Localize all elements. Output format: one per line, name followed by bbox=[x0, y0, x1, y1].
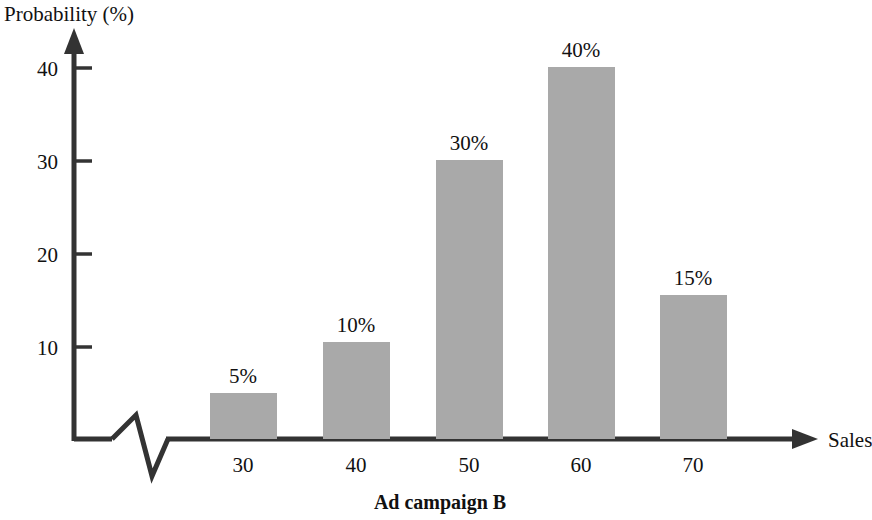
y-tick-label-30: 30 bbox=[37, 150, 58, 174]
chart-canvas: Probability (%) 40 30 20 10 Sales 5% 10% bbox=[0, 0, 872, 520]
y-tick-label-40: 40 bbox=[37, 57, 58, 81]
bar-40 bbox=[323, 342, 390, 439]
x-axis-title: Sales bbox=[828, 428, 872, 452]
y-axis-arrow-icon bbox=[64, 28, 84, 54]
bar-value-label-60: 40% bbox=[562, 38, 601, 62]
y-tick-label-10: 10 bbox=[37, 336, 58, 360]
x-axis-arrow-icon bbox=[792, 429, 818, 449]
bar-70 bbox=[660, 295, 727, 439]
x-tick-label-70: 70 bbox=[683, 453, 704, 477]
bar-chart-figure: Probability (%) 40 30 20 10 Sales 5% 10% bbox=[0, 0, 872, 520]
bar-60 bbox=[548, 67, 615, 439]
chart-caption: Ad campaign B bbox=[374, 491, 506, 514]
y-tick-label-20: 20 bbox=[37, 243, 58, 267]
bar-value-label-70: 15% bbox=[674, 266, 713, 290]
x-tick-label-50: 50 bbox=[459, 453, 480, 477]
bar-50 bbox=[436, 160, 503, 439]
x-tick-label-30: 30 bbox=[233, 453, 254, 477]
x-tick-label-40: 40 bbox=[346, 453, 367, 477]
bar-value-label-50: 30% bbox=[450, 131, 489, 155]
y-axis-title: Probability (%) bbox=[4, 2, 134, 26]
bar-value-label-40: 10% bbox=[337, 313, 376, 337]
x-axis-break-symbol bbox=[112, 415, 168, 476]
x-tick-label-60: 60 bbox=[571, 453, 592, 477]
bar-30 bbox=[210, 393, 277, 439]
bar-value-label-30: 5% bbox=[229, 364, 257, 388]
